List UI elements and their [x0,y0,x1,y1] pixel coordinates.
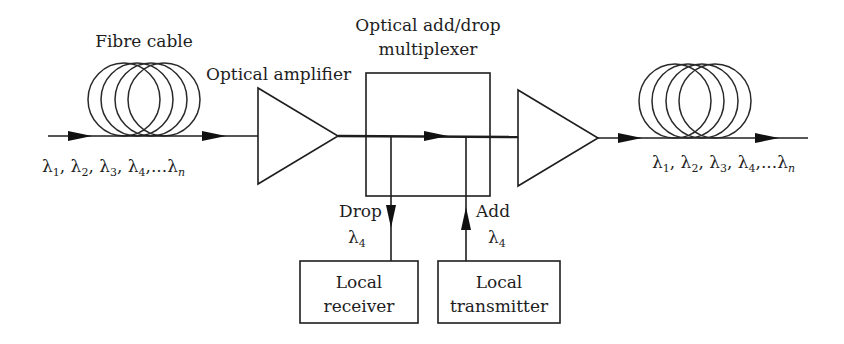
input-wavelength-label: λ1, λ2, λ3, λ4,...λn [42,156,185,179]
input-arrow-head-2 [202,131,226,141]
input-fibre-coil [88,63,200,136]
output-wavelength-label: λ1, λ2, λ3, λ4,...λn [652,152,795,175]
oadm-label-line1: Optical add/drop [355,15,500,35]
optical-amplifier-1 [258,88,338,184]
oadm-label-line2: multiplexer [379,39,479,59]
fibre-cable-label: Fibre cable [95,31,193,51]
oadm-diagram: Fibre cable λ1, λ2, λ3, λ4,...λn Optical… [0,0,844,344]
output-arrow-head [618,133,642,143]
add-label: Add [475,201,510,221]
receiver-label-line1: Local [336,272,383,292]
drop-arrow-head [386,205,396,228]
add-arrow-head [461,207,471,230]
through-arrow-head [424,131,448,141]
transmitter-label-line2: transmitter [450,296,549,316]
optical-amplifier-2 [518,90,598,186]
transmitter-label-line1: Local [476,272,523,292]
output-fibre-coil [639,64,751,138]
input-arrow-head [68,131,92,141]
receiver-label-line2: receiver [324,296,396,316]
drop-wavelength: λ4 [348,227,366,250]
add-wavelength: λ4 [488,227,506,250]
optical-amplifier-label: Optical amplifier [206,64,352,84]
drop-label: Drop [339,201,382,221]
output-arrow-head-2 [755,133,779,143]
